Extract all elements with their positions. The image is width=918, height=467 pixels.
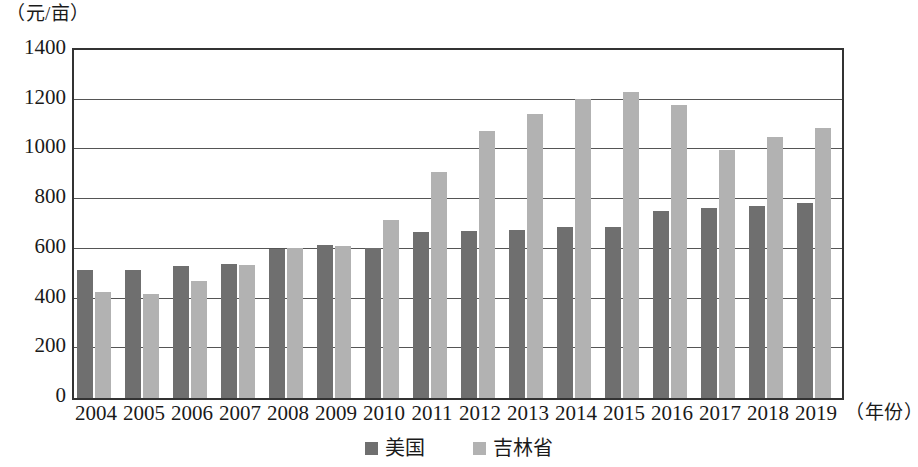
plot-area [72, 48, 844, 400]
x-axis-tick-label: 2012 [456, 400, 504, 426]
bar-group [266, 50, 314, 398]
bar [239, 265, 255, 398]
legend-swatch-icon [473, 442, 486, 455]
bar [77, 270, 93, 398]
bar-group [746, 50, 794, 398]
bar-chart-figure: （元/亩） 0200400600800100012001400 20042005… [0, 0, 918, 467]
legend-swatch-icon [365, 442, 378, 455]
bar [143, 294, 159, 398]
bar [527, 114, 543, 398]
bar [173, 266, 189, 398]
bar [287, 248, 303, 398]
bar [557, 227, 573, 398]
bar-group [170, 50, 218, 398]
bar [671, 105, 687, 398]
legend-item: 美国 [365, 437, 425, 459]
y-axis-tick-label: 400 [2, 286, 66, 307]
y-axis-tick-label: 1200 [2, 87, 66, 108]
y-axis-tick-label: 0 [2, 385, 66, 406]
bar [191, 281, 207, 398]
bar [413, 232, 429, 398]
bar [365, 248, 381, 398]
bar [509, 230, 525, 398]
x-axis-tick-label: 2004 [72, 400, 120, 426]
bar [383, 220, 399, 398]
bar [797, 203, 813, 398]
bar-group [362, 50, 410, 398]
bar [605, 227, 621, 399]
bar-group [458, 50, 506, 398]
y-axis-tick-label: 1400 [2, 37, 66, 58]
bar [719, 150, 735, 398]
bar [653, 211, 669, 398]
y-axis-tick-labels: 0200400600800100012001400 [0, 48, 66, 396]
x-axis-tick-label: 2019 [792, 400, 840, 426]
y-axis-tick-label: 1000 [2, 136, 66, 157]
bar-group [794, 50, 842, 398]
bar-group [314, 50, 362, 398]
bar [431, 172, 447, 398]
bar [95, 292, 111, 398]
bar [221, 264, 237, 398]
x-axis-tick-label: 2010 [360, 400, 408, 426]
bar [815, 128, 831, 398]
x-axis-tick-label: 2014 [552, 400, 600, 426]
x-axis-tick-label: 2016 [648, 400, 696, 426]
x-axis-tick-label: 2005 [120, 400, 168, 426]
legend-label: 美国 [385, 437, 425, 459]
bar [749, 206, 765, 398]
x-axis-tick-label: 2007 [216, 400, 264, 426]
bar-group [122, 50, 170, 398]
bar-group [506, 50, 554, 398]
bar [461, 231, 477, 398]
legend-item: 吉林省 [473, 437, 553, 459]
bar-group [698, 50, 746, 398]
y-axis-tick-label: 800 [2, 186, 66, 207]
x-axis-tick-label: 2013 [504, 400, 552, 426]
bar [125, 270, 141, 399]
legend-label: 吉林省 [493, 437, 553, 459]
x-axis-tick-label: 2009 [312, 400, 360, 426]
bar [335, 246, 351, 398]
bar-group [602, 50, 650, 398]
bar-group [650, 50, 698, 398]
x-axis-tick-label: 2006 [168, 400, 216, 426]
bar [575, 99, 591, 398]
x-axis-tick-label: 2017 [696, 400, 744, 426]
bar [317, 245, 333, 398]
bar-group [218, 50, 266, 398]
x-axis-tick-label: 2008 [264, 400, 312, 426]
bar-group [554, 50, 602, 398]
bar [623, 92, 639, 398]
y-axis-unit-label: （元/亩） [6, 3, 90, 25]
x-axis-tick-label: 2011 [408, 400, 456, 426]
bar [269, 249, 285, 398]
bar [479, 131, 495, 398]
y-axis-tick-label: 200 [2, 335, 66, 356]
bar [767, 137, 783, 398]
bar-group [410, 50, 458, 398]
bar [701, 208, 717, 398]
bars-layer [74, 50, 842, 398]
x-axis-tick-label: 2018 [744, 400, 792, 426]
bar-group [74, 50, 122, 398]
y-axis-tick-label: 600 [2, 236, 66, 257]
x-axis-unit-label: （年份） [845, 400, 918, 426]
x-axis-tick-label: 2015 [600, 400, 648, 426]
chart-legend: 美国吉林省 [0, 437, 918, 459]
x-axis-tick-labels: 2004200520062007200820092010201120122013… [72, 400, 840, 430]
